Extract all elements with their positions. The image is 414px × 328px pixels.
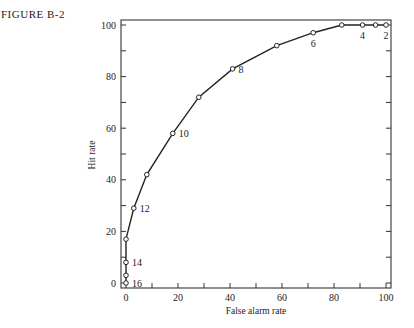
y-tick-label: 20 — [106, 226, 116, 237]
y-tick-label: 0 — [111, 278, 116, 289]
data-point-marker — [124, 260, 129, 265]
point-label: 2 — [384, 30, 389, 41]
x-tick-label: 40 — [225, 292, 235, 303]
x-tick-label: 0 — [124, 292, 129, 303]
data-point-marker — [384, 23, 389, 28]
point-label: 4 — [360, 30, 365, 41]
y-axis-title: Hit rate — [87, 141, 97, 170]
point-label: 8 — [239, 64, 244, 75]
y-tick-label: 80 — [106, 71, 116, 82]
data-point-marker — [197, 95, 202, 100]
x-axis-title: False alarm rate — [226, 306, 287, 316]
data-point-marker — [145, 172, 150, 177]
x-tick-label: 100 — [379, 292, 394, 303]
data-point-marker — [124, 273, 129, 278]
data-point-marker — [360, 23, 365, 28]
data-point-marker — [340, 23, 345, 28]
axis-tick-labels: 020406080100020406080100 — [101, 20, 394, 304]
x-tick-label: 60 — [277, 292, 287, 303]
point-label: 6 — [311, 38, 316, 49]
axis-ticks — [121, 25, 391, 288]
data-series — [124, 23, 389, 286]
data-point-marker — [230, 67, 235, 72]
plot-border — [121, 20, 391, 288]
point-label: 14 — [132, 257, 142, 268]
data-point-marker — [275, 43, 280, 48]
point-label: 12 — [140, 203, 150, 214]
data-point-marker — [124, 237, 129, 242]
point-label: 16 — [132, 278, 142, 289]
x-tick-label: 20 — [173, 292, 183, 303]
data-point-marker — [132, 206, 137, 211]
plot-frame — [121, 20, 391, 288]
y-tick-label: 40 — [106, 174, 116, 185]
roc-chart: 020406080100020406080100 161412108642 Fa… — [0, 0, 414, 328]
data-point-marker — [373, 23, 378, 28]
data-point-marker — [311, 30, 316, 35]
y-tick-label: 100 — [101, 20, 116, 31]
y-tick-label: 60 — [106, 123, 116, 134]
point-label: 10 — [179, 128, 189, 139]
data-point-marker — [171, 131, 176, 136]
data-point-marker — [124, 281, 129, 286]
point-labels: 161412108642 — [132, 30, 389, 289]
roc-line — [126, 25, 386, 283]
x-tick-label: 80 — [329, 292, 339, 303]
